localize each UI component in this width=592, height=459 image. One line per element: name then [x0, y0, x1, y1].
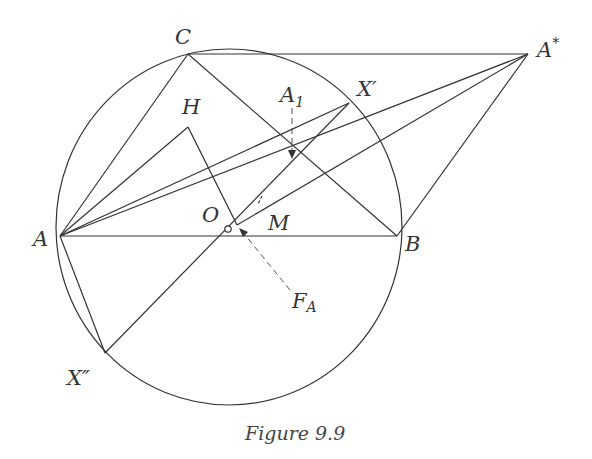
- segment-BAstar: [397, 54, 528, 236]
- arrowhead-A1: [288, 150, 296, 159]
- label-X-double-prime: X″: [65, 366, 90, 390]
- segment-AH: [60, 127, 188, 236]
- label-O: O: [202, 203, 219, 227]
- figure-caption: Figure 9.9: [244, 422, 345, 444]
- segment-AXdoubleprime: [60, 236, 105, 353]
- label-A-star: A*: [535, 35, 559, 62]
- point-O: [225, 226, 231, 232]
- label-A: A: [31, 227, 48, 251]
- midpoint-tick-M: [258, 196, 262, 204]
- label-H: H: [181, 95, 201, 119]
- label-X-prime: X′: [355, 77, 377, 101]
- segment-AC: [60, 54, 188, 236]
- segment-foot-Astar: [237, 54, 528, 225]
- label-F-A: FA: [291, 289, 317, 315]
- label-M: M: [267, 211, 290, 235]
- label-C: C: [175, 25, 191, 49]
- label-A1: A1: [278, 83, 304, 110]
- geometry-figure: C A* H A1 X′ O M A B FA X″ Figure 9.9: [0, 0, 592, 459]
- label-B: B: [404, 232, 420, 256]
- arrow-FA: [245, 235, 290, 290]
